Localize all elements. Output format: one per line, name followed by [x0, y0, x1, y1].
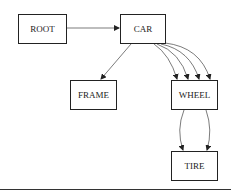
node-frame-label: FRAME	[78, 90, 109, 100]
node-tire-label: TIRE	[185, 161, 205, 171]
bottom-rule	[0, 189, 231, 190]
node-wheel-label: WHEEL	[179, 90, 211, 100]
node-car: CAR	[120, 14, 166, 44]
node-wheel: WHEEL	[171, 80, 218, 110]
node-root-label: ROOT	[30, 24, 55, 34]
edge-wheel-tire-2	[206, 110, 210, 150]
node-root: ROOT	[18, 14, 67, 44]
edge-car-wheel-1	[154, 44, 177, 79]
edge-car-wheel-2	[157, 44, 188, 79]
edge-wheel-tire-1	[180, 110, 184, 150]
node-car-label: CAR	[134, 24, 153, 34]
edge-car-frame	[101, 44, 131, 79]
node-frame: FRAME	[70, 80, 117, 110]
edge-car-wheel-4	[165, 43, 210, 79]
node-tire: TIRE	[171, 151, 218, 181]
